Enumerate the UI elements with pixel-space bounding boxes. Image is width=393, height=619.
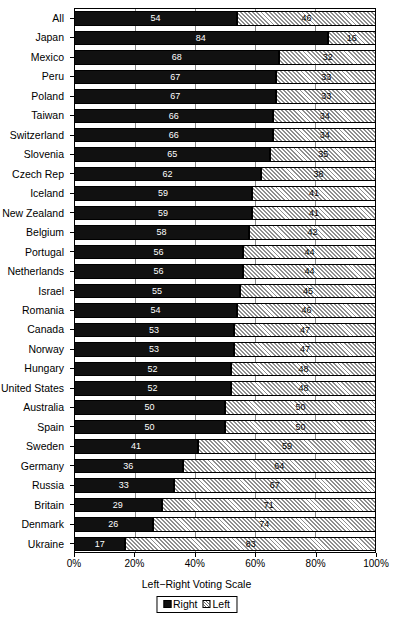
bar-row: 6634 [74,125,376,146]
bar-row: 5545 [74,281,376,302]
y-axis-tick [70,232,74,233]
y-axis-tick [70,524,74,525]
y-axis-tick [70,504,74,505]
y-axis-tick [70,154,74,155]
stacked-bar: 5644 [74,264,376,279]
bar-row: 1783 [74,534,376,555]
bar-row: 2971 [74,495,376,516]
y-axis-tick [70,329,74,330]
bar-value-label-left: 41 [309,186,319,201]
y-axis-label: Romania [22,300,64,321]
stacked-bar: 5050 [74,400,376,415]
stacked-bar: 6634 [74,109,376,124]
y-axis-label: Britain [34,495,64,516]
bar-row: 6733 [74,66,376,87]
bar-value-label-right: 84 [196,31,206,46]
x-axis-tick [316,553,317,557]
bar-value-label-right: 67 [170,70,180,85]
bar-row: 5941 [74,183,376,204]
bar-value-label-left: 34 [320,128,330,143]
bar-value-label-right: 56 [154,264,164,279]
stacked-bar: 5248 [74,381,376,396]
bar-row: 5842 [74,222,376,243]
y-axis-tick [70,485,74,486]
bar-value-label-left: 35 [318,147,328,162]
bar-row: 6238 [74,164,376,185]
stacked-bar: 6733 [74,89,376,104]
y-axis-label: Peru [42,66,64,87]
y-axis-tick [70,388,74,389]
bar-value-label-right: 66 [169,128,179,143]
y-axis-tick [70,212,74,213]
x-axis-ticklabel: 40% [185,558,205,569]
bar-value-label-left: 50 [295,420,305,435]
bar-value-label-right: 53 [149,323,159,338]
legend-entry-left: Left [203,599,231,610]
bar-row: 5248 [74,378,376,399]
y-axis-label: Czech Rep [12,164,64,185]
bar-value-label-right: 58 [157,225,167,240]
bar-row: 5644 [74,261,376,282]
y-axis-label: Denmark [21,514,64,535]
bar-row: 5941 [74,203,376,224]
y-axis-label: Japan [35,27,64,48]
bar-value-label-right: 68 [172,50,182,65]
y-axis-tick [70,251,74,252]
bar-value-label-right: 29 [113,498,123,513]
y-axis-tick [70,135,74,136]
stacked-bar: 6535 [74,147,376,162]
bar-value-label-right: 54 [151,303,161,318]
stacked-bar: 5347 [74,342,376,357]
bar-value-label-left: 16 [347,31,357,46]
y-axis-label: Taiwan [31,105,64,126]
stacked-bar: 8416 [74,31,376,46]
bar-value-label-right: 59 [158,186,168,201]
y-axis-tick [70,37,74,38]
bar-row: 8416 [74,27,376,48]
x-axis-tick [134,553,135,557]
bar-value-label-left: 47 [300,342,310,357]
stacked-bar-chart: AllJapanMexicoPeruPolandTaiwanSwitzerlan… [0,0,393,619]
stacked-bar: 4159 [74,439,376,454]
y-axis-label: Spain [37,417,64,438]
bar-value-label-right: 54 [151,11,161,26]
stacked-bar: 5446 [74,11,376,26]
y-axis-label: Mexico [31,47,64,68]
bar-value-label-right: 26 [108,517,118,532]
legend-label-left: Left [213,599,231,610]
bar-row: 4159 [74,436,376,457]
bar-value-label-left: 41 [309,206,319,221]
x-axis-ticklabel: 0% [67,558,81,569]
bar-value-label-left: 44 [305,264,315,279]
bar-value-label-right: 17 [95,537,105,552]
bar-value-label-right: 66 [169,109,179,124]
bars-layer: 5446841668326733673366346634653562385941… [74,8,376,553]
x-axis-tick [195,553,196,557]
y-axis-tick [70,57,74,58]
x-axis-ticks: 0%20%40%60%80%100% [74,553,376,577]
bar-row: 5050 [74,417,376,438]
bar-value-label-right: 52 [148,381,158,396]
stacked-bar: 5248 [74,362,376,377]
bar-row: 6733 [74,86,376,107]
bar-row: 5446 [74,300,376,321]
x-axis-tick [376,553,377,557]
stacked-bar: 5941 [74,186,376,201]
y-axis-tick [70,310,74,311]
bar-value-label-left: 71 [264,498,274,513]
bar-value-label-right: 36 [123,459,133,474]
bar-value-label-left: 33 [321,70,331,85]
x-axis-title: Left−Right Voting Scale [0,578,393,590]
legend-swatch-right-icon [163,600,171,608]
y-axis-label: Hungary [24,358,64,379]
bar-row: 3664 [74,456,376,477]
bar-value-label-left: 48 [299,362,309,377]
y-axis-tick [70,193,74,194]
stacked-bar: 3664 [74,459,376,474]
x-axis-ticklabel: 80% [306,558,326,569]
stacked-bar: 6634 [74,128,376,143]
y-axis-label: Israel [38,281,64,302]
bar-value-label-right: 67 [170,89,180,104]
bar-value-label-right: 55 [152,284,162,299]
bar-value-label-left: 45 [303,284,313,299]
